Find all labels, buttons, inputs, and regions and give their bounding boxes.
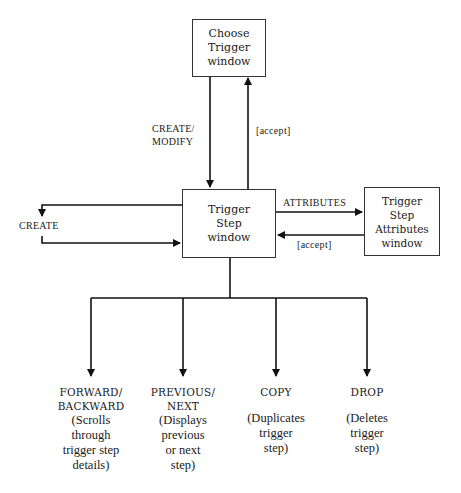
choose-trigger-window-box: Choose Trigger window xyxy=(192,19,266,77)
action-previous-next: PREVIOUS/ NEXT (Displays previous or nex… xyxy=(138,385,228,473)
action-command: PREVIOUS/ NEXT xyxy=(138,385,228,413)
create-modify-label: CREATE/ MODIFY xyxy=(152,122,195,148)
action-command: COPY xyxy=(231,385,321,399)
attributes-label: ATTRIBUTES xyxy=(283,196,346,209)
trigger-step-attributes-window-box: Trigger Step Attributes window xyxy=(364,187,440,256)
action-description: (Duplicates trigger step) xyxy=(231,411,321,456)
action-command: DROP xyxy=(322,385,412,399)
action-description: (Displays previous or next step) xyxy=(138,413,228,473)
action-copy: COPY (Duplicates trigger step) xyxy=(231,385,321,456)
trigger-step-window-box: Trigger Step window xyxy=(182,189,276,258)
trigger-step-attributes-label: Trigger Step Attributes window xyxy=(375,194,429,250)
trigger-step-label: Trigger Step window xyxy=(207,203,250,245)
create-loop-label: CREATE xyxy=(19,219,59,232)
accept-back-label: [accept] xyxy=(297,238,332,251)
accept-up-label: [accept] xyxy=(256,124,291,137)
action-drop: DROP (Deletes trigger step) xyxy=(322,385,412,456)
action-description: (Deletes trigger step) xyxy=(322,411,412,456)
action-description: (Scrolls through trigger step details) xyxy=(46,413,136,473)
choose-trigger-label: Choose Trigger window xyxy=(207,27,250,69)
action-command: FORWARD/ BACKWARD xyxy=(46,385,136,413)
action-forward-backward: FORWARD/ BACKWARD (Scrolls through trigg… xyxy=(46,385,136,473)
